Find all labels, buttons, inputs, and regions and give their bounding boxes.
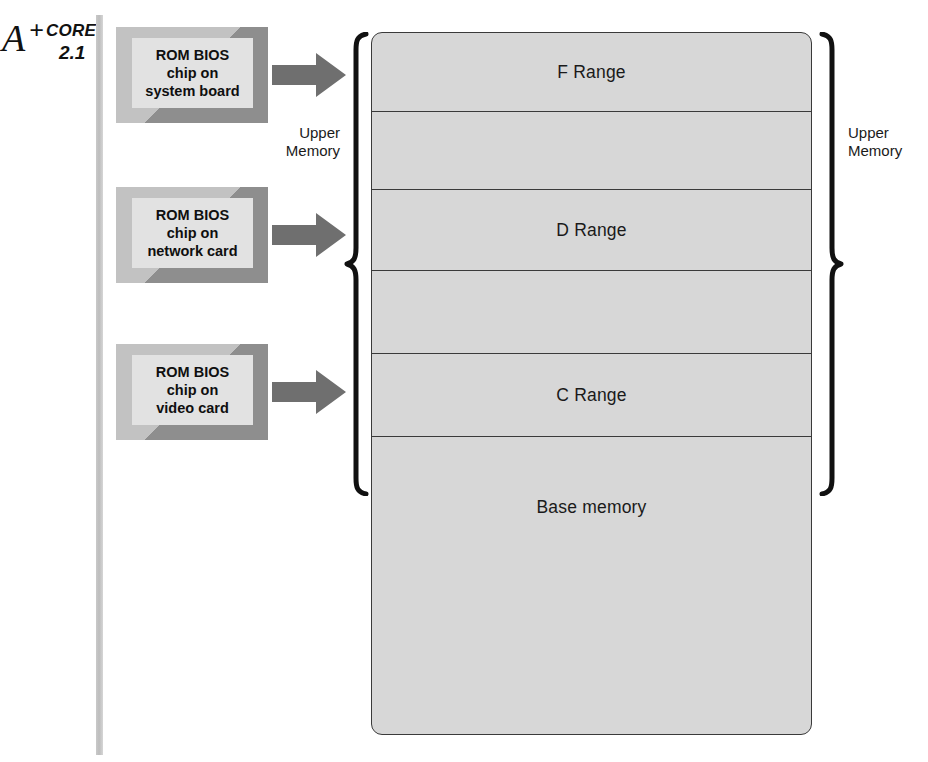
bracket-label-upper-memory-left: UpperMemory xyxy=(282,124,340,160)
arrow-right-icon xyxy=(272,369,346,415)
chip-label-line: ROM BIOS xyxy=(156,363,229,381)
chip-label-line: chip on xyxy=(167,224,219,242)
memory-segment-d-range: D Range xyxy=(372,190,811,271)
curly-brace-icon xyxy=(344,32,370,496)
left-vertical-rule xyxy=(96,15,103,755)
memory-segment-label: C Range xyxy=(556,385,626,406)
memory-segment-c-range: C Range xyxy=(372,354,811,437)
memory-segment-label: F Range xyxy=(557,62,626,83)
core-marker-letter: A xyxy=(2,16,24,60)
memory-segment-gap-upper-1 xyxy=(372,112,811,190)
chip-label-line: chip on xyxy=(167,64,219,82)
chip-face: ROM BIOSchip onsystem board xyxy=(132,38,253,108)
memory-segment-f-range: F Range xyxy=(372,33,811,112)
chip-label-line: system board xyxy=(145,82,239,100)
memory-segment-label: D Range xyxy=(556,220,626,241)
rom-bios-network-card-box: ROM BIOSchip onnetwork card xyxy=(116,187,268,283)
chip-label-line: ROM BIOS xyxy=(156,46,229,64)
rom-bios-system-board-box: ROM BIOSchip onsystem board xyxy=(116,27,268,123)
chip-label-line: chip on xyxy=(167,381,219,399)
chip-label-line: ROM BIOS xyxy=(156,206,229,224)
chip-label-line: network card xyxy=(147,242,237,260)
memory-segment-base-memory: Base memory xyxy=(372,437,811,735)
core-marker-number: 2.1 xyxy=(59,42,85,64)
chip-face: ROM BIOSchip onnetwork card xyxy=(132,198,253,268)
core-marker-word: CORE xyxy=(46,21,96,41)
rom-bios-video-card-box: ROM BIOSchip onvideo card xyxy=(116,344,268,440)
aplus-core-objective-marker: A + CORE 2.1 xyxy=(2,14,94,74)
arrow-right-icon xyxy=(272,52,346,98)
core-marker-plus: + xyxy=(29,16,44,46)
chip-face: ROM BIOSchip onvideo card xyxy=(132,355,253,425)
bracket-label-line: Upper xyxy=(848,124,918,142)
bracket-label-line: Memory xyxy=(282,142,340,160)
memory-segment-label: Base memory xyxy=(536,497,646,518)
memory-map: F RangeD RangeC RangeBase memory xyxy=(371,32,812,735)
bracket-label-line: Memory xyxy=(848,142,918,160)
chip-label-line: video card xyxy=(156,399,229,417)
memory-segment-gap-upper-2 xyxy=(372,271,811,354)
curly-brace-icon xyxy=(818,32,844,496)
bracket-label-upper-memory-right: UpperMemory xyxy=(848,124,918,160)
arrow-right-icon xyxy=(272,212,346,258)
bracket-label-line: Upper xyxy=(282,124,340,142)
diagram-canvas: A + CORE 2.1 ROM BIOSchip onsystem board… xyxy=(0,0,928,762)
